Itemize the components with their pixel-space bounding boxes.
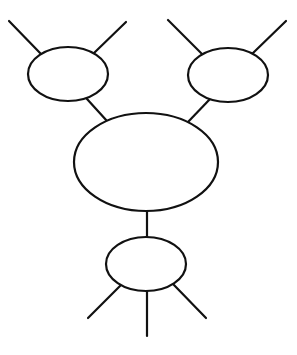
nodes-group bbox=[28, 47, 268, 291]
edge-bottom-stub-left bbox=[88, 285, 121, 318]
node-bottom bbox=[106, 237, 186, 291]
node-top-left bbox=[28, 47, 108, 101]
tree-diagram bbox=[0, 0, 297, 355]
edge-top-right-to-center bbox=[188, 99, 210, 122]
edge-top-left-stub-right bbox=[94, 22, 126, 53]
edge-bottom-stub-right bbox=[173, 284, 206, 318]
diagram-canvas bbox=[0, 0, 297, 355]
edge-top-left-to-center bbox=[87, 99, 107, 121]
edge-top-right-stub-right bbox=[253, 21, 286, 53]
node-center bbox=[74, 113, 218, 211]
edge-top-right-stub-left bbox=[168, 20, 202, 54]
node-top-right bbox=[188, 48, 268, 102]
edge-top-left-stub-left bbox=[9, 21, 41, 54]
